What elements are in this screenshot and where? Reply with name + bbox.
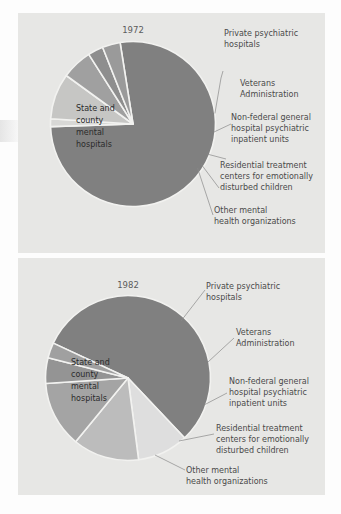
callout-line: hospitals bbox=[206, 293, 242, 302]
leader-other-mental-health-1972 bbox=[198, 168, 214, 215]
center-label-line-3: mental bbox=[76, 128, 104, 137]
callout-private-psychiatric-1972: Private psychiatric hospitals bbox=[224, 29, 298, 49]
callout-private-psychiatric-1982: Private psychiatric hospitals bbox=[206, 282, 280, 302]
leader-nonfederal-general-1972 bbox=[207, 154, 226, 159]
leader-veterans-1982 bbox=[208, 338, 234, 362]
callout-line: inpatient units bbox=[229, 399, 287, 408]
pie-chart-1982-panel: 1982 State and county mental h bbox=[18, 258, 325, 495]
callout-line: inpatient units bbox=[231, 135, 289, 144]
callout-line: hospital psychiatric bbox=[229, 388, 307, 397]
leader-residential-treatment-1972 bbox=[201, 164, 219, 188]
leader-other-mental-health-1982 bbox=[155, 455, 185, 470]
callout-line: Veterans bbox=[236, 328, 271, 337]
callout-line: Non-federal general bbox=[229, 377, 309, 386]
callout-line: Private psychiatric bbox=[206, 282, 280, 291]
pie-chart-1982-svg: 1982 State and county mental h bbox=[18, 258, 325, 495]
pie-chart-1972-svg: 1972 State and county mental bbox=[18, 13, 325, 253]
callout-line: disturbed children bbox=[220, 183, 293, 192]
callout-line: Administration bbox=[240, 90, 299, 99]
callout-nonfederal-general-1982: Non-federal general hospital psychiatric… bbox=[229, 377, 309, 408]
callout-line: centers for emotionally bbox=[220, 172, 313, 181]
callout-line: centers for emotionally bbox=[216, 435, 309, 444]
callout-other-mental-health-1972: Other mental health organizations bbox=[214, 206, 296, 226]
callout-line: hospital psychiatric bbox=[231, 124, 309, 133]
callout-line: disturbed children bbox=[216, 446, 289, 455]
callout-line: Administration bbox=[236, 339, 295, 348]
leader-private-psychiatric-1982 bbox=[181, 290, 205, 321]
callout-line: Other mental bbox=[186, 466, 239, 475]
callout-veterans-1982: Veterans Administration bbox=[236, 328, 295, 348]
center-label-line-2: county bbox=[71, 370, 99, 379]
center-label-line-1: State and bbox=[76, 104, 115, 113]
pie-chart-1972-panel: 1972 State and county mental bbox=[18, 13, 325, 253]
callout-line: health organizations bbox=[186, 477, 268, 486]
center-label-line-4: hospitals bbox=[71, 394, 107, 403]
callout-other-mental-health-1982: Other mental health organizations bbox=[186, 466, 268, 486]
center-label-line-3: mental bbox=[71, 382, 99, 391]
center-label-line-2: county bbox=[76, 116, 104, 125]
callout-residential-treatment-1972: Residential treatment centers for emotio… bbox=[220, 161, 313, 192]
callout-line: Private psychiatric bbox=[224, 29, 298, 38]
callout-line: Non-federal general bbox=[231, 113, 311, 122]
leader-veterans-1972 bbox=[214, 124, 231, 132]
callout-line: health organizations bbox=[214, 217, 296, 226]
chart-title-1972: 1972 bbox=[122, 25, 144, 35]
callout-residential-treatment-1982: Residential treatment centers for emotio… bbox=[216, 424, 309, 455]
center-label-line-1: State and bbox=[71, 358, 110, 367]
center-label-line-4: hospitals bbox=[76, 140, 112, 149]
callout-veterans-1972: Veterans Administration bbox=[240, 79, 299, 99]
callout-line: Other mental bbox=[214, 206, 267, 215]
figure-page: 1972 State and county mental bbox=[0, 0, 341, 514]
callout-line: hospitals bbox=[224, 40, 260, 49]
callout-line: Residential treatment bbox=[216, 424, 303, 433]
chart-title-1982: 1982 bbox=[117, 280, 139, 290]
callout-line: Residential treatment bbox=[220, 161, 307, 170]
callout-nonfederal-general-1972: Non-federal general hospital psychiatric… bbox=[231, 113, 311, 144]
leader-private-psychiatric-1972 bbox=[215, 71, 223, 114]
callout-line: Veterans bbox=[240, 79, 275, 88]
